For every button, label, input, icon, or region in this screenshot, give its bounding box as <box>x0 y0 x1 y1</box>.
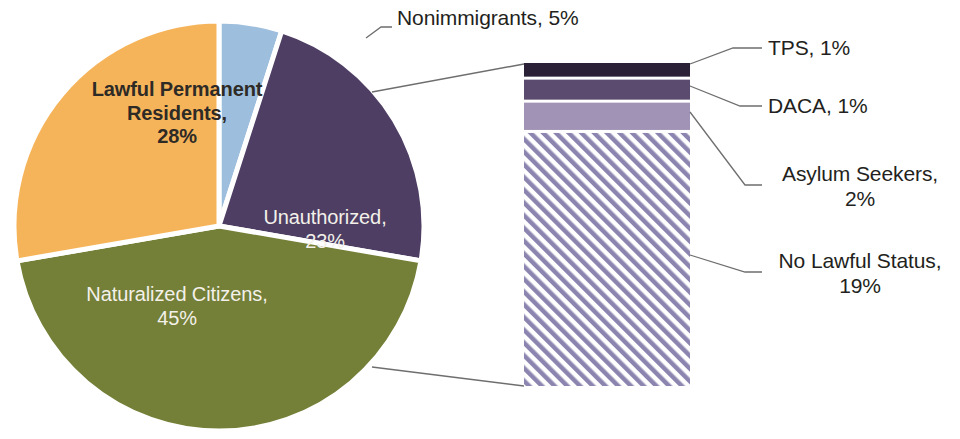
callout-label-tps: TPS, 1% <box>768 36 958 61</box>
pie-label-unauthorized: Unauthorized, 23% <box>240 206 410 253</box>
leader-no-lawful-status <box>690 255 762 272</box>
breakout-stacked-bar <box>524 63 690 386</box>
bar-segment-asylum-seekers[interactable] <box>524 103 690 130</box>
connector-bottom <box>372 367 524 386</box>
leader-asylum <box>690 112 762 185</box>
callout-label-no-lawful-status: No Lawful Status, 19% <box>760 249 960 299</box>
callout-label-nonimmigrants: Nonimmigrants, 5% <box>397 6 637 31</box>
callout-label-asylum-seekers: Asylum Seekers, 2% <box>762 162 958 212</box>
bar-segment-tps[interactable] <box>524 63 690 77</box>
pie-label-naturalized-citizens: Naturalized Citizens, 45% <box>62 283 292 330</box>
bar-segment-no-lawful-status[interactable] <box>524 133 690 386</box>
connector-top <box>372 64 524 92</box>
leader-daca <box>690 86 762 106</box>
bar-segment-daca[interactable] <box>524 80 690 100</box>
pie-label-lawful-permanent-residents: Lawful Permanent Residents, 28% <box>62 78 292 149</box>
leader-nonimmigrants <box>366 27 392 38</box>
immigrant-population-status-figure: Lawful Permanent Residents, 28% Unauthor… <box>0 0 960 439</box>
callout-label-daca: DACA, 1% <box>768 94 958 119</box>
leader-tps <box>690 48 762 64</box>
chart-graphics <box>0 0 960 439</box>
